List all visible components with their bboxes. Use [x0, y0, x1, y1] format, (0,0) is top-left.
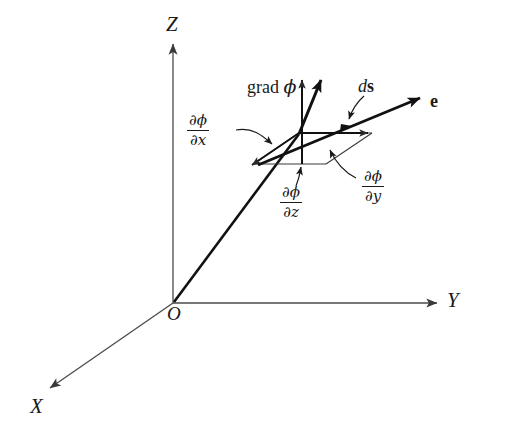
axis-label-x: X [30, 396, 43, 417]
gradient-diagram-figure: Z Y X O grad ϕ ds e ∂ϕ ∂x ∂ϕ ∂z ∂ϕ ∂y [0, 0, 511, 439]
ds-label-d: d [358, 76, 367, 96]
axis-x [50, 303, 173, 388]
dphi-dy-numerator: ∂ϕ [362, 168, 384, 186]
dphi-dx-numerator: ∂ϕ [187, 112, 209, 130]
leader-dphi-dx [236, 129, 272, 144]
origin-label-o: O [167, 304, 181, 323]
dphi-dy-denominator: ∂y [362, 187, 384, 205]
leader-dphi-dy [330, 150, 356, 178]
component-label-dphi-dz: ∂ϕ ∂z [280, 184, 302, 221]
gradient-vector-label: grad ϕ [247, 77, 296, 96]
gradient-label-text: grad [247, 77, 283, 97]
leader-ds [349, 96, 364, 119]
ds-label-s: s [367, 76, 374, 96]
axis-label-y: Y [447, 290, 459, 311]
dphi-dz-numerator: ∂ϕ [280, 184, 302, 202]
dphi-dx-denominator: ∂x [187, 131, 209, 149]
component-label-dphi-dy: ∂ϕ ∂y [362, 168, 384, 205]
axis-label-z: Z [166, 14, 178, 35]
gradient-label-phi: ϕ [283, 75, 296, 97]
ds-vector-label: ds [358, 77, 374, 95]
component-label-dphi-dx: ∂ϕ ∂x [187, 112, 209, 149]
diagram-canvas [0, 0, 511, 439]
dphi-dz-denominator: ∂z [280, 203, 302, 221]
unit-vector-label-e: e [430, 92, 438, 110]
component-arrow-dphi-dx [252, 133, 299, 165]
